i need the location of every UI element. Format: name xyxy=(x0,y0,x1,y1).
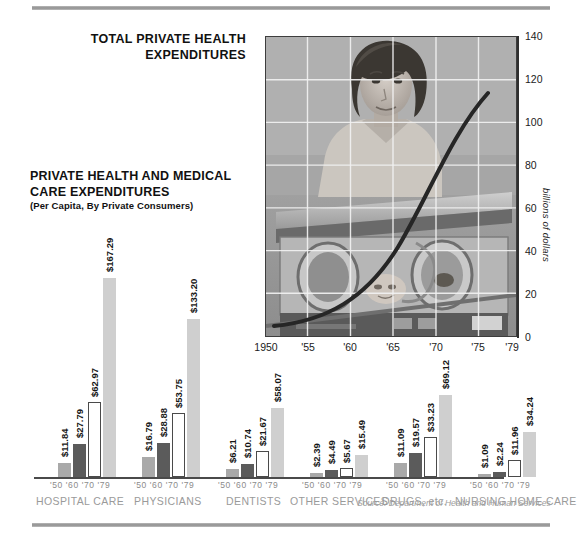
bar-label: $16.79 xyxy=(143,422,154,451)
bar-dentists-1970[interactable]: $21.67 xyxy=(256,451,269,477)
bar-other-services-1960[interactable]: $4.49 xyxy=(325,470,338,477)
bar-label: $11.96 xyxy=(509,426,520,455)
year-labels-physicians: '50 '60 '70 '79 xyxy=(134,480,194,490)
bar-label: $2.39 xyxy=(311,443,322,467)
y-tick-120: 120 xyxy=(525,73,543,85)
year-labels-nursing-home-care: '50 '60 '70 '79 xyxy=(470,480,530,490)
y-tick-60: 60 xyxy=(525,202,537,214)
bar-label: $5.67 xyxy=(341,439,352,463)
y-tick-100: 100 xyxy=(525,116,543,128)
category-label-hospital-care: HOSPITAL CARE xyxy=(36,495,124,507)
bar-physicians-1960[interactable]: $28.88 xyxy=(157,443,170,477)
bar-label: $21.67 xyxy=(257,417,268,446)
bar-nursing-home-care-1970[interactable]: $11.96 xyxy=(508,460,521,477)
bar-label: $34.24 xyxy=(524,397,535,426)
bar-dentists-1960[interactable]: $10.74 xyxy=(241,464,254,477)
bar-dentists-1950[interactable]: $6.21 xyxy=(226,469,239,477)
bar-label: $4.49 xyxy=(326,440,337,464)
bar-label: $28.88 xyxy=(158,408,169,437)
bar-physicians-1970[interactable]: $53.75 xyxy=(172,413,185,477)
bar-drugs-1979[interactable]: $69.12 xyxy=(439,395,452,477)
category-label-physicians: PHYSICIANS xyxy=(134,495,202,507)
bar-chart-baseline xyxy=(34,477,504,479)
y-tick-140: 140 xyxy=(525,30,543,42)
bar-label: $33.23 xyxy=(425,403,436,432)
bar-label: $10.74 xyxy=(242,429,253,458)
bar-drugs-1950[interactable]: $11.09 xyxy=(394,463,407,477)
bar-label: $15.49 xyxy=(356,420,367,449)
bar-label: $62.97 xyxy=(89,368,100,397)
bar-other-services-1979[interactable]: $15.49 xyxy=(355,455,368,477)
year-labels-dentists: '50 '60 '70 '79 xyxy=(218,480,278,490)
bar-label: $6.21 xyxy=(227,439,238,463)
bar-physicians-1950[interactable]: $16.79 xyxy=(142,457,155,477)
bar-hospital-care-1960[interactable]: $27.79 xyxy=(73,444,86,477)
bar-label: $53.75 xyxy=(173,379,184,408)
year-labels-hospital-care: '50 '60 '70 '79 xyxy=(50,480,110,490)
source-note: Source: Department of Health and Human S… xyxy=(357,498,551,508)
bar-label: $58.07 xyxy=(272,373,283,402)
bar-physicians-1979[interactable]: $133.20 xyxy=(187,319,200,477)
bar-hospital-care-1950[interactable]: $11.84 xyxy=(58,463,71,477)
infographic-page: TOTAL PRIVATE HEALTH EXPENDITURES PRIVAT… xyxy=(0,0,582,543)
bar-other-services-1970[interactable]: $5.67 xyxy=(340,468,353,477)
bar-label: $19.57 xyxy=(410,418,421,447)
top-divider-rule xyxy=(32,6,550,10)
bar-label: $11.09 xyxy=(395,428,406,457)
private-health-bar-chart: $11.84 $27.79 $62.97 $167.29 '50 '60 '70… xyxy=(0,215,582,515)
year-labels-other-services: '50 '60 '70 '79 xyxy=(302,480,362,490)
bar-label: $27.79 xyxy=(74,409,85,438)
bar-chart-title: PRIVATE HEALTH AND MEDICAL CARE EXPENDIT… xyxy=(30,168,260,201)
bar-hospital-care-1979[interactable]: $167.29 xyxy=(103,278,116,477)
bar-other-services-1950[interactable]: $2.39 xyxy=(310,473,323,477)
bottom-divider-rule xyxy=(32,523,550,527)
y-tick-80: 80 xyxy=(525,159,537,171)
bar-nursing-home-care-1950[interactable]: $1.09 xyxy=(478,474,491,477)
bar-label: $69.12 xyxy=(440,360,451,389)
bar-label: $133.20 xyxy=(188,279,199,313)
line-chart-title: TOTAL PRIVATE HEALTH EXPENDITURES xyxy=(38,31,246,63)
bar-drugs-1960[interactable]: $19.57 xyxy=(409,453,422,477)
bar-label: $2.24 xyxy=(494,442,505,466)
bar-dentists-1979[interactable]: $58.07 xyxy=(271,408,284,477)
year-labels-drugs: '50 '60 '70 '79 xyxy=(386,480,446,490)
bar-drugs-1970[interactable]: $33.23 xyxy=(424,437,437,477)
category-label-dentists: DENTISTS xyxy=(226,495,281,507)
bar-label: $1.09 xyxy=(479,444,490,468)
bar-chart-subtitle: (Per Capita, By Private Consumers) xyxy=(30,200,270,211)
bar-hospital-care-1970[interactable]: $62.97 xyxy=(88,402,101,477)
bar-nursing-home-care-1979[interactable]: $34.24 xyxy=(523,432,536,477)
bar-label: $11.84 xyxy=(59,428,70,457)
bar-label: $167.29 xyxy=(104,238,115,272)
bar-nursing-home-care-1960[interactable]: $2.24 xyxy=(493,472,506,477)
